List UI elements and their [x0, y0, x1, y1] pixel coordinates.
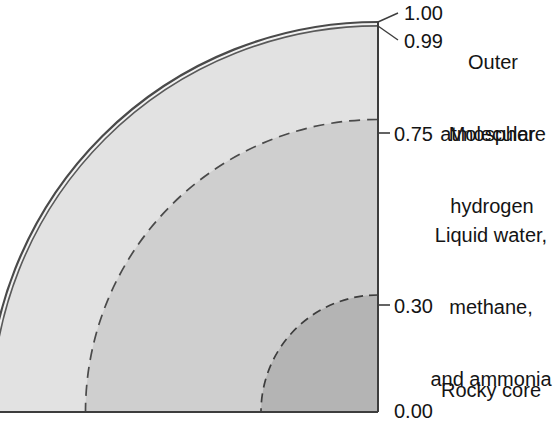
label-molecular-hydrogen-line1: Molecular — [428, 122, 556, 146]
leader-line-0-99 — [378, 26, 398, 40]
label-liquid-layer-line1: Liquid water, — [424, 223, 558, 247]
leader-line-1-00 — [378, 13, 398, 22]
label-rocky-core: Rocky core — [424, 330, 558, 426]
label-rocky-core-line1: Rocky core — [424, 378, 558, 402]
label-liquid-layer-line2: methane, — [424, 295, 558, 319]
label-outer-atmosphere-line1: Outer — [430, 50, 556, 74]
